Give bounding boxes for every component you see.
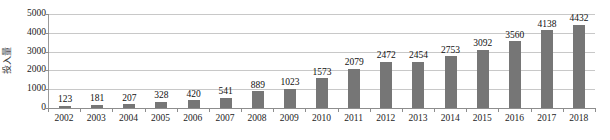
bar-chart: 投入量 010002000300040005000 12318120732842… <box>0 0 610 140</box>
bar[interactable] <box>348 69 360 108</box>
bar-value-label: 889 <box>251 81 265 91</box>
bar-value-label: 4138 <box>537 20 556 30</box>
y-axis-tick-label: 5000 <box>27 9 46 19</box>
bar[interactable] <box>284 89 296 108</box>
bar-group[interactable]: 2454 <box>402 14 434 108</box>
bar[interactable] <box>477 50 489 108</box>
bar-value-label: 2472 <box>377 51 396 61</box>
bar[interactable] <box>316 78 328 108</box>
bar-value-label: 420 <box>186 90 200 100</box>
bar-group[interactable]: 123 <box>49 14 81 108</box>
bar[interactable] <box>380 62 392 108</box>
bar-group[interactable]: 4138 <box>531 14 563 108</box>
bar-group[interactable]: 4432 <box>563 14 595 108</box>
bar-value-label: 2753 <box>441 46 460 56</box>
x-axis-tick-label: 2013 <box>402 112 434 125</box>
bar-value-label: 3560 <box>505 31 524 41</box>
x-axis-tick-labels: 2002200320042005200620072008200920102011… <box>48 112 595 125</box>
x-axis-tick-label: 2018 <box>563 112 595 125</box>
bar-group[interactable]: 3092 <box>467 14 499 108</box>
x-axis-tick-label: 2009 <box>273 112 305 125</box>
x-axis-tick-label: 2007 <box>209 112 241 125</box>
bar-group[interactable]: 3560 <box>499 14 531 108</box>
y-axis-tick-label: 3000 <box>27 47 46 57</box>
bar-value-label: 2454 <box>409 51 428 61</box>
bar[interactable] <box>412 62 424 108</box>
bar-value-label: 4432 <box>570 14 589 24</box>
bar-group[interactable]: 2079 <box>338 14 370 108</box>
y-axis-tick-labels: 010002000300040005000 <box>14 14 46 108</box>
x-axis-tick-label: 2010 <box>305 112 337 125</box>
bar[interactable] <box>188 100 200 108</box>
y-axis-tick-label: 4000 <box>27 28 46 38</box>
bar-value-label: 207 <box>122 94 136 104</box>
bar[interactable] <box>573 25 585 108</box>
x-axis-tick-label: 2005 <box>145 112 177 125</box>
y-axis-tick-label: 1000 <box>27 84 46 94</box>
bar[interactable] <box>252 91 264 108</box>
plot-area: 1231812073284205418891023157320792472245… <box>48 14 595 108</box>
x-axis-tick-label: 2008 <box>241 112 273 125</box>
bar[interactable] <box>509 41 521 108</box>
bar-group[interactable]: 2472 <box>370 14 402 108</box>
x-axis-tick-label: 2003 <box>80 112 112 125</box>
x-axis: 2002200320042005200620072008200920102011… <box>48 108 595 130</box>
bar-group[interactable]: 207 <box>113 14 145 108</box>
x-axis-tick-label: 2017 <box>531 112 563 125</box>
bar-value-label: 328 <box>154 91 168 101</box>
y-axis-title: 投入量 <box>0 39 13 83</box>
bar-value-label: 541 <box>219 87 233 97</box>
bar-value-label: 181 <box>90 94 104 104</box>
bar[interactable] <box>541 30 553 108</box>
bar-value-label: 1023 <box>280 78 299 88</box>
x-axis-tick-label: 2011 <box>338 112 370 125</box>
x-axis-tick-label: 2015 <box>466 112 498 125</box>
x-axis-tick-label: 2004 <box>112 112 144 125</box>
x-axis-tick-label: 2016 <box>498 112 530 125</box>
bar-group[interactable]: 1573 <box>306 14 338 108</box>
bar[interactable] <box>445 56 457 108</box>
bar-value-label: 123 <box>58 95 72 105</box>
bar-group[interactable]: 889 <box>242 14 274 108</box>
bar-group[interactable]: 328 <box>145 14 177 108</box>
x-axis-tick-label: 2006 <box>177 112 209 125</box>
bar-value-label: 1573 <box>313 68 332 78</box>
x-axis-tick-label: 2002 <box>48 112 80 125</box>
bar-group[interactable]: 181 <box>81 14 113 108</box>
bar-group[interactable]: 2753 <box>435 14 467 108</box>
bar-value-label: 2079 <box>345 58 364 68</box>
bar[interactable] <box>220 98 232 108</box>
x-axis-tick-label: 2012 <box>370 112 402 125</box>
x-axis-tick-label: 2014 <box>434 112 466 125</box>
bar-group[interactable]: 1023 <box>274 14 306 108</box>
bars-layer: 1231812073284205418891023157320792472245… <box>49 14 595 108</box>
bar-group[interactable]: 420 <box>178 14 210 108</box>
bar-value-label: 3092 <box>473 39 492 49</box>
y-axis-tick-label: 2000 <box>27 66 46 76</box>
x-axis-tick-mark <box>595 108 596 112</box>
bar-group[interactable]: 541 <box>210 14 242 108</box>
